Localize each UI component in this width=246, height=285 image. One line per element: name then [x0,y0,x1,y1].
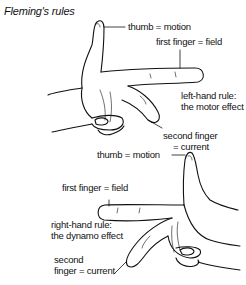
right-second-finger-line2: finger = current [54,266,115,277]
right-thumb-label: thumb = motion [97,150,160,161]
left-first-finger-label: first finger = field [156,37,222,48]
left-rule-line2: the motor effect [181,102,244,113]
right-hand-drawing [98,152,240,270]
right-rule-line2: the dynamo effect [51,231,123,242]
left-second-finger-line2: = current [173,142,209,153]
left-rule-line1: left-hand rule: [181,91,236,102]
left-second-finger-line1: second finger [163,131,217,142]
right-first-finger-label: first finger = field [62,183,128,194]
left-thumb-label: thumb = motion [128,22,191,33]
right-rule-line1: right-hand rule: [51,220,112,231]
right-second-finger-line1: second [54,255,83,266]
